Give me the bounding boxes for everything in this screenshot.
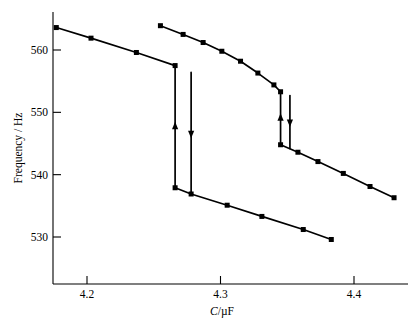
data-point-marker bbox=[181, 32, 186, 37]
data-point-marker bbox=[238, 59, 243, 64]
x-axis-title-unit: /µF bbox=[218, 305, 234, 318]
data-point-marker bbox=[329, 237, 334, 242]
data-point-marker bbox=[341, 171, 346, 176]
data-point-marker bbox=[201, 40, 206, 45]
x-axis-title: C/µF bbox=[210, 305, 234, 318]
data-point-marker bbox=[89, 36, 94, 41]
data-point-marker bbox=[278, 142, 283, 147]
data-point-marker bbox=[225, 203, 230, 208]
y-axis-title: Frequency / Hz bbox=[12, 113, 25, 184]
data-point-marker bbox=[368, 184, 373, 189]
y-tick-label: 550 bbox=[31, 106, 49, 118]
data-point-marker bbox=[301, 227, 306, 232]
data-point-marker bbox=[271, 82, 276, 87]
data-point-marker bbox=[219, 49, 224, 54]
data-point-marker bbox=[315, 159, 320, 164]
x-tick-label: 4.3 bbox=[213, 288, 228, 300]
data-point-marker bbox=[54, 25, 59, 30]
data-point-marker bbox=[259, 214, 264, 219]
data-point-marker bbox=[189, 191, 194, 196]
y-tick-label: 540 bbox=[31, 169, 49, 181]
y-tick-label: 530 bbox=[31, 231, 49, 243]
data-point-marker bbox=[255, 71, 260, 76]
y-tick-label: 560 bbox=[31, 44, 49, 56]
data-point-marker bbox=[173, 185, 178, 190]
x-tick-label: 4.4 bbox=[347, 288, 362, 300]
data-point-marker bbox=[158, 23, 163, 28]
data-point-marker bbox=[392, 195, 397, 200]
hysteresis-plot-svg: 530540550560 4.24.34.4 Frequency / Hz C/… bbox=[0, 0, 412, 335]
plot-background bbox=[0, 0, 412, 335]
x-tick-label: 4.2 bbox=[80, 288, 95, 300]
data-point-marker bbox=[295, 150, 300, 155]
data-point-marker bbox=[134, 50, 139, 55]
chart-figure: 530540550560 4.24.34.4 Frequency / Hz C/… bbox=[0, 0, 412, 335]
